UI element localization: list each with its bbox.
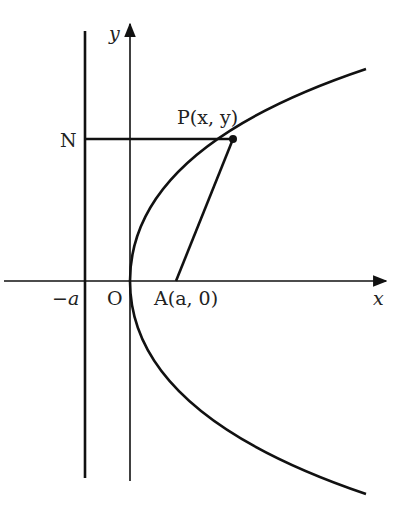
origin-label: O [107,287,123,309]
parabola-diagram: y x N P(x, y) −a O A(a, 0) [0,0,405,518]
segment-pa [176,139,233,281]
x-axis-label: x [373,287,384,309]
focus-label: A(a, 0) [153,287,218,309]
minus-a-label: −a [52,287,79,309]
point-p-label: P(x, y) [177,106,238,128]
y-axis-label: y [108,22,120,44]
point-n-label: N [60,129,77,151]
point-p-dot [229,135,237,143]
